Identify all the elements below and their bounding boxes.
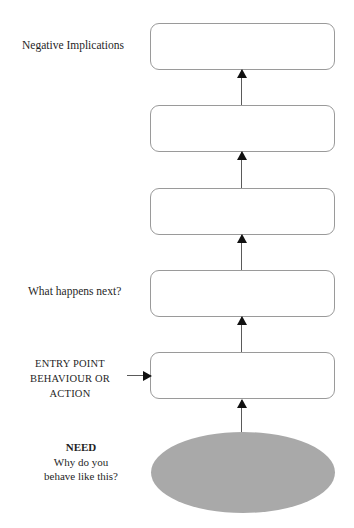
arrow-up-box4-to-box3 (241, 235, 242, 270)
arrow-up-box3-to-box2 (241, 152, 242, 188)
label-need-line-2: behave like this? (24, 469, 138, 484)
flow-box-what-happens-next[interactable] (150, 270, 335, 317)
label-entry-point-line-3: ACTION (14, 387, 126, 402)
label-need-title: NEED (24, 440, 138, 455)
label-need-line-1: Why do you (24, 455, 138, 470)
label-entry-point-line-2: BEHAVIOUR OR (14, 372, 126, 387)
flow-box-entry-point[interactable] (150, 352, 335, 399)
arrow-up-box2-to-box1 (241, 70, 242, 105)
arrow-up-need-to-box5 (241, 400, 242, 436)
arrow-right-entry-point (127, 375, 151, 376)
behaviour-chain-diagram: Negative Implications What happens next?… (0, 0, 354, 528)
flow-box-negative-implications[interactable] (150, 23, 335, 70)
label-entry-point-line-1: ENTRY POINT (14, 357, 126, 372)
arrow-up-box5-to-box4 (241, 317, 242, 352)
label-need: NEED Why do you behave like this? (24, 440, 138, 484)
label-entry-point: ENTRY POINT BEHAVIOUR OR ACTION (14, 357, 126, 402)
label-what-happens-next: What happens next? (28, 284, 121, 299)
need-ellipse[interactable] (151, 432, 335, 513)
label-negative-implications: Negative Implications (22, 38, 124, 53)
flow-box-step-3[interactable] (150, 188, 335, 235)
flow-box-step-4[interactable] (150, 105, 335, 152)
